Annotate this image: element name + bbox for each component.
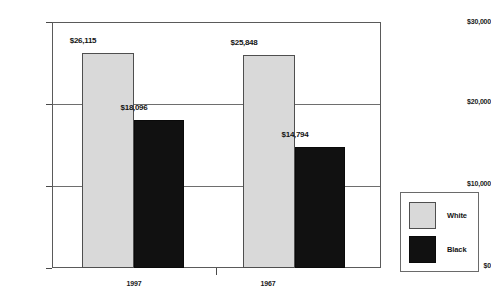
- y-axis-tick-label-10000: $10,000: [447, 180, 491, 187]
- x-axis-label-1997: 1997: [104, 280, 164, 287]
- bar-value-label-white-1997: $26,115: [55, 36, 111, 45]
- y-axis-tick-mark-0: [46, 268, 52, 269]
- legend-item-white: White: [409, 202, 473, 230]
- bar-white-1967: [243, 55, 295, 268]
- y-axis-tick-label-30000: $30,000: [447, 18, 491, 25]
- legend-item-black: Black: [409, 236, 473, 264]
- bar-white-1997: [82, 53, 134, 268]
- bar-black-1967: [295, 147, 345, 268]
- bar-chart: $30,000 $20,000 $10,000 $0 $26,115 $18,0…: [0, 0, 491, 303]
- legend: White Black: [400, 192, 479, 272]
- x-axis-label-1967: 1967: [238, 280, 298, 287]
- y-axis-tick-label-20000: $20,000: [447, 98, 491, 105]
- plot-area: [52, 22, 381, 268]
- legend-label-black: Black: [447, 245, 467, 254]
- bar-value-label-black-1997: $18,096: [106, 103, 162, 112]
- legend-swatch-black-icon: [409, 236, 436, 263]
- x-axis-separator-tick: [216, 268, 217, 275]
- bar-value-label-black-1967: $14,794: [267, 130, 323, 139]
- legend-label-white: White: [447, 211, 467, 220]
- bar-value-label-white-1967: $25,848: [216, 38, 272, 47]
- legend-swatch-white-icon: [409, 202, 436, 229]
- bar-black-1997: [134, 120, 184, 268]
